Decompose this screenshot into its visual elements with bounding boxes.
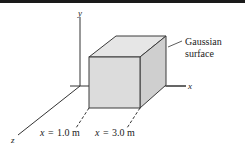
z-axis-label: z [10, 135, 15, 145]
dashed-line-x1 [76, 108, 89, 128]
marker-label-1: x = 1.0 m [39, 127, 80, 138]
x-axis-label: x [187, 81, 192, 91]
marker-label-2: x = 3.0 m [94, 127, 135, 138]
marker-1-var: x [39, 127, 45, 138]
marker-1-value: 1.0 m [57, 127, 80, 138]
diagram-svg: y x z Gaussian surface x = 1.0 m x = 3.0… [0, 0, 245, 151]
y-axis-label: y [77, 8, 82, 18]
dashed-line-x3 [127, 108, 140, 128]
marker-2-var: x [94, 127, 100, 138]
gaussian-label-line2: surface [185, 48, 214, 59]
marker-2-value: 3.0 m [112, 127, 135, 138]
cube-front-face [89, 57, 140, 108]
marker-1-eq: = [48, 127, 54, 138]
gaussian-surface-diagram: y x z Gaussian surface x = 1.0 m x = 3.0… [0, 0, 245, 151]
label-leader-line [168, 41, 182, 47]
gaussian-label-line1: Gaussian [185, 36, 222, 47]
marker-2-eq: = [103, 127, 109, 138]
